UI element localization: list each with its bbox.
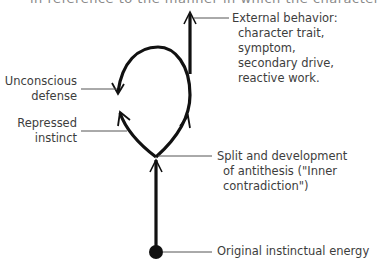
label-split-antithesis: Split and development of antithesis ("In… bbox=[217, 149, 347, 194]
diagram-canvas: in reference to the manner in which the … bbox=[0, 0, 379, 266]
split-line: of antithesis ("Inner bbox=[217, 164, 347, 179]
unconscious-defense-line: defense bbox=[0, 89, 77, 104]
label-repressed-instinct: Repressed instinct bbox=[0, 116, 77, 146]
repressed-instinct-line: instinct bbox=[0, 131, 77, 146]
repressed-instinct-line: Repressed bbox=[0, 116, 77, 131]
external-behavior-line: reactive work. bbox=[232, 71, 338, 86]
external-behavior-line: secondary drive, bbox=[232, 56, 338, 71]
repressed-branch bbox=[120, 113, 156, 157]
defense-loop bbox=[118, 47, 190, 157]
origin-dot-icon bbox=[149, 245, 163, 259]
external-behavior-title: External behavior: bbox=[232, 11, 338, 26]
label-external-behavior: External behavior: character trait, symp… bbox=[232, 11, 338, 86]
external-behavior-line: character trait, bbox=[232, 26, 338, 41]
unconscious-defense-line: Unconscious bbox=[0, 74, 77, 89]
label-original-energy: Original instinctual energy bbox=[217, 244, 369, 259]
split-line: Split and development bbox=[217, 149, 347, 164]
external-behavior-line: symptom, bbox=[232, 41, 338, 56]
split-line: contradiction") bbox=[217, 179, 347, 194]
original-energy-text: Original instinctual energy bbox=[217, 244, 369, 259]
label-unconscious-defense: Unconscious defense bbox=[0, 74, 77, 104]
